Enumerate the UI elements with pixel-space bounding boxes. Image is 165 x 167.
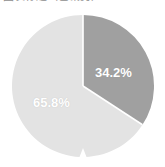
chart-title-fragment: 图表标题（已裁剪） xyxy=(3,0,102,3)
pie-slice-label-segment-a: 34.2% xyxy=(95,65,132,80)
pie-slice-label-segment-b: 65.8% xyxy=(33,95,70,110)
pie-chart-svg xyxy=(0,5,165,167)
pie-chart: 34.2% 65.8% xyxy=(0,5,165,167)
screenshot-root: 图表标题（已裁剪） 34.2% 65.8% xyxy=(0,0,165,167)
